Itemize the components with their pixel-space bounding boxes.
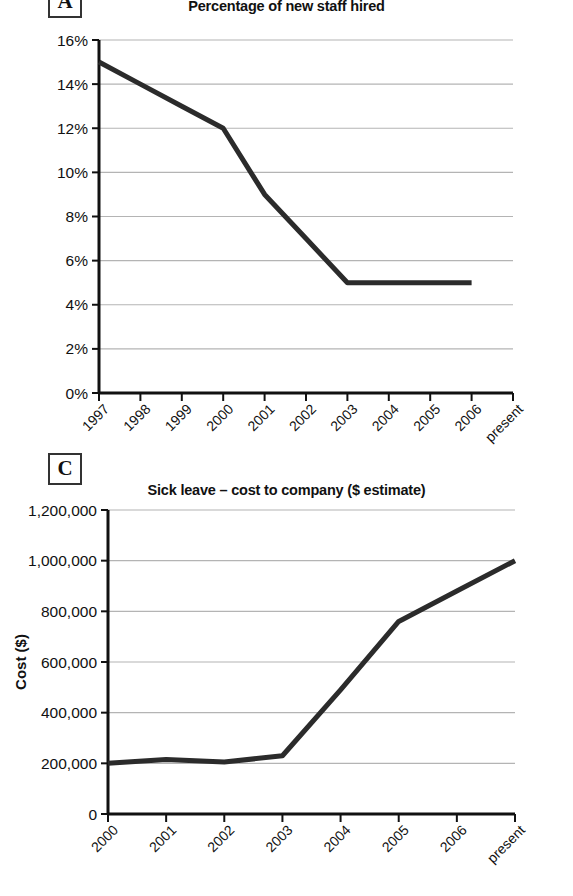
y-tick-label: 12% [57, 120, 88, 137]
chart-panel-c: C Sick leave – cost to company ($ estima… [0, 450, 573, 896]
y-tick-label: 16% [57, 32, 88, 49]
x-tick-label: 2002 [204, 822, 237, 855]
x-tick-label: 2004 [369, 401, 402, 434]
y-tick-label: 14% [57, 76, 88, 93]
x-tick-label: 2006 [437, 822, 470, 855]
panel-badge-c: C [48, 453, 82, 485]
y-tick-label: 400,000 [41, 704, 97, 721]
x-tick-label: 2001 [146, 822, 179, 855]
line-chart-a: 0%2%4%6%8%10%12%14%16%199719981999200020… [0, 0, 573, 450]
x-tick-label: 2002 [286, 401, 319, 434]
x-tick-label: 2003 [262, 822, 295, 855]
chart-panel-a: A Percentage of new staff hired 0%2%4%6%… [0, 0, 573, 450]
y-tick-label: 6% [66, 252, 89, 269]
y-tick-label: 10% [57, 164, 88, 181]
x-tick-label: 1999 [162, 401, 195, 434]
y-tick-label: 800,000 [41, 603, 97, 620]
y-tick-label: 0 [88, 806, 97, 823]
x-tick-label: 2004 [320, 822, 353, 855]
line-chart-c: 0200,000400,000600,000800,0001,000,0001,… [0, 450, 573, 896]
y-axis-title: Cost ($) [12, 634, 29, 690]
x-tick-label: 2003 [327, 401, 360, 434]
x-tick-label: 2005 [410, 401, 443, 434]
y-tick-label: 200,000 [41, 755, 97, 772]
y-tick-label: 1,000,000 [28, 552, 97, 569]
x-tick-label: 1997 [79, 401, 112, 434]
x-tick-label: 2006 [451, 401, 484, 434]
x-tick-label: 2000 [88, 822, 121, 855]
chart-title-c: Sick leave – cost to company ($ estimate… [0, 482, 573, 498]
x-tick-label: present [484, 822, 528, 866]
x-tick-label: 2000 [203, 401, 236, 434]
y-tick-label: 600,000 [41, 654, 97, 671]
y-tick-label: 4% [66, 296, 89, 313]
x-tick-label: 2005 [378, 822, 411, 855]
y-tick-label: 8% [66, 208, 89, 225]
x-tick-label: 1998 [120, 401, 153, 434]
chart-title-a: Percentage of new staff hired [0, 0, 573, 14]
y-tick-label: 2% [66, 340, 89, 357]
y-tick-label: 1,200,000 [28, 502, 97, 519]
x-tick-label: present [482, 401, 526, 445]
x-tick-label: 2001 [244, 401, 277, 434]
y-tick-label: 0% [66, 385, 89, 402]
panel-badge-a: A [48, 0, 82, 18]
